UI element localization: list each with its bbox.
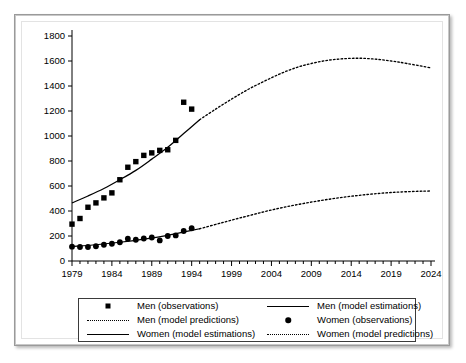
solid-line-icon xyxy=(265,301,311,311)
svg-text:1979: 1979 xyxy=(61,268,82,279)
legend-grid: Men (observations)Men (model estimations… xyxy=(79,299,415,341)
svg-text:200: 200 xyxy=(49,230,65,241)
svg-text:2019: 2019 xyxy=(381,268,402,279)
legend-entry: Women (observations) xyxy=(259,315,437,325)
series-2 xyxy=(200,58,431,120)
legend-label: Men (observations) xyxy=(137,301,218,311)
svg-text:2024: 2024 xyxy=(420,268,441,279)
svg-text:1984: 1984 xyxy=(101,268,122,279)
legend-label: Women (model estimations) xyxy=(137,329,255,339)
legend-entry: Women (model predictions) xyxy=(259,329,437,339)
svg-text:800: 800 xyxy=(49,155,65,166)
svg-text:1200: 1200 xyxy=(44,105,65,116)
legend-entry: Men (model estimations) xyxy=(259,301,437,311)
dotted-line-icon xyxy=(265,329,311,339)
svg-text:2004: 2004 xyxy=(261,268,282,279)
solid-line-icon xyxy=(85,329,131,339)
svg-text:1999: 1999 xyxy=(221,268,242,279)
chart-legend: Men (observations)Men (model estimations… xyxy=(78,298,416,342)
legend-entry: Men (observations) xyxy=(79,301,259,311)
svg-text:600: 600 xyxy=(49,180,65,191)
svg-text:2014: 2014 xyxy=(341,268,362,279)
svg-text:400: 400 xyxy=(49,205,65,216)
legend-label: Men (model predictions) xyxy=(137,315,239,325)
x-axis: 1979198419891994199920042009201420192024 xyxy=(61,261,441,279)
circle-marker-icon xyxy=(265,315,311,325)
y-axis: 020040060080010001200140016001800 xyxy=(44,30,72,266)
svg-text:1800: 1800 xyxy=(44,30,65,41)
svg-text:1000: 1000 xyxy=(44,130,65,141)
svg-text:1600: 1600 xyxy=(44,55,65,66)
legend-label: Men (model estimations) xyxy=(317,301,421,311)
series-0 xyxy=(69,100,194,227)
figure-frame: 020040060080010001200140016001800 197919… xyxy=(14,14,450,346)
dotted-line-icon xyxy=(85,315,131,325)
square-marker-icon xyxy=(85,301,131,311)
series-3 xyxy=(69,225,194,250)
chart-series-group xyxy=(69,58,431,250)
svg-text:1994: 1994 xyxy=(181,268,202,279)
legend-label: Women (model predictions) xyxy=(317,329,433,339)
svg-text:1400: 1400 xyxy=(44,80,65,91)
svg-text:2009: 2009 xyxy=(301,268,322,279)
series-5 xyxy=(200,191,431,229)
svg-text:0: 0 xyxy=(60,255,65,266)
svg-text:1989: 1989 xyxy=(141,268,162,279)
legend-label: Women (observations) xyxy=(317,315,412,325)
legend-entry: Men (model predictions) xyxy=(79,315,259,325)
legend-entry: Women (model estimations) xyxy=(79,329,259,339)
